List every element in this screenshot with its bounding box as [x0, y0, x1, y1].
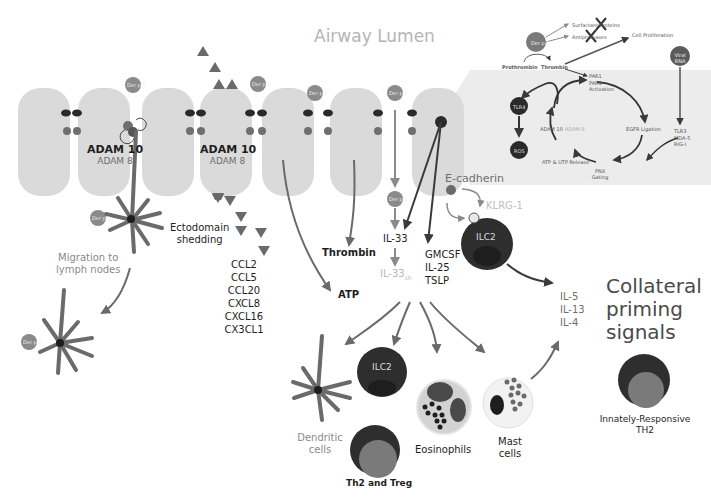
- eosinophils-label: Eosinophils: [415, 444, 471, 456]
- adam-label-left: ADAM 10 ADAM 8: [85, 143, 145, 167]
- adam8-center: ADAM 8: [200, 156, 255, 167]
- tlr4-label: TLR4: [513, 104, 526, 110]
- inset-adam8-label: ADAM 8: [565, 126, 585, 132]
- dendritic-cell-lymph: [40, 290, 92, 373]
- der-p1-label: Der p 1: [309, 90, 328, 96]
- viral-rna-label: Viral RNA: [672, 52, 688, 64]
- innately-responsive-th2-cell: [618, 354, 670, 408]
- cell-proliferation-label: Cell Proliferation: [632, 32, 673, 38]
- klrg1-label: KLRG-1: [486, 200, 523, 212]
- innately-responsive-th2-label: Innately-Responsive TH2: [595, 414, 695, 436]
- inset-thrombin-label: Thrombin: [541, 64, 568, 70]
- adam10-left: ADAM 10: [85, 143, 145, 156]
- pnx-gating-label: PNX Gating: [588, 168, 612, 180]
- epithelial-cells: [18, 88, 464, 196]
- dendritic-cells-label: Dendritic cells: [296, 432, 344, 456]
- th2-treg-label: Th2 and Treg: [346, 478, 412, 489]
- der-p1-label: Der p 1: [23, 339, 42, 345]
- par-activation-label: PAR1 PAR4 Activation: [589, 73, 614, 93]
- der-p1-label: Der p 1: [252, 81, 271, 87]
- th2-cytokine-list: IL-5 IL-13 IL-4: [560, 290, 585, 329]
- prothrombin-label: Prothrombin: [502, 64, 537, 70]
- inset-der-p1-label: Der p 1: [531, 40, 550, 46]
- ectodomain-shedding-label: Ectodomain shedding: [170, 222, 229, 246]
- tlr3-label: TLR3 MDA-5 RIG-I: [674, 128, 690, 148]
- eosinophil-cell: [417, 380, 471, 434]
- il33sh-label: IL-33sh: [380, 268, 412, 281]
- il33-label: IL-33: [383, 233, 408, 245]
- egfr-label: EGFR Ligation: [626, 126, 661, 132]
- mast-cell: [483, 378, 533, 429]
- atp-utp-label: ATP & UTP Release: [542, 159, 589, 165]
- collateral-priming-title: Collateral priming signals: [606, 275, 702, 344]
- adam10-center: ADAM 10: [200, 143, 255, 156]
- e-cadherin-dot: [446, 185, 456, 195]
- der-p1-label: Der p 1: [389, 196, 408, 202]
- adam-label-center: ADAM 10 ADAM 8: [200, 143, 255, 167]
- th2-treg-cell: [350, 425, 400, 478]
- adam8-left: ADAM 8: [85, 156, 145, 167]
- chemokine-list: CCL2 CCL5 CCL20 CXCL8 CXCL16 CX3CL1: [220, 258, 268, 336]
- ilc2-label-target: ILC2: [372, 362, 392, 373]
- e-cadherin-label: E-cadherin: [445, 172, 504, 185]
- ilc2-label-upper: ILC2: [476, 232, 496, 243]
- migration-label: Migration to lymph nodes: [56, 252, 120, 276]
- fan-arrows: [346, 302, 484, 352]
- der-p1-label: Der p 1: [92, 215, 111, 221]
- ilc2-to-cytokines-arrow: [507, 264, 552, 283]
- surfactant-label: Surfactant Proteins: [572, 22, 620, 28]
- epithelial-cytokine-list: GMCSF IL-25 TSLP: [425, 248, 460, 287]
- mast-cells-label: Mast cells: [495, 436, 525, 460]
- ros-label: ROS: [514, 148, 525, 154]
- thrombin-label: Thrombin: [322, 247, 376, 259]
- der-p1-label: Der p 1: [389, 90, 408, 96]
- inset-adam10-label: ADAM 10: [540, 126, 563, 132]
- der-p1-label: Der p 1: [127, 82, 146, 88]
- airway-lumen-title: Airway Lumen: [314, 26, 435, 46]
- antiproteases-label: Antiproteases: [572, 34, 607, 40]
- atp-label: ATP: [338, 289, 359, 301]
- mast-to-cytokines-arrow: [531, 342, 558, 379]
- dendritic-cell-target: [293, 336, 350, 420]
